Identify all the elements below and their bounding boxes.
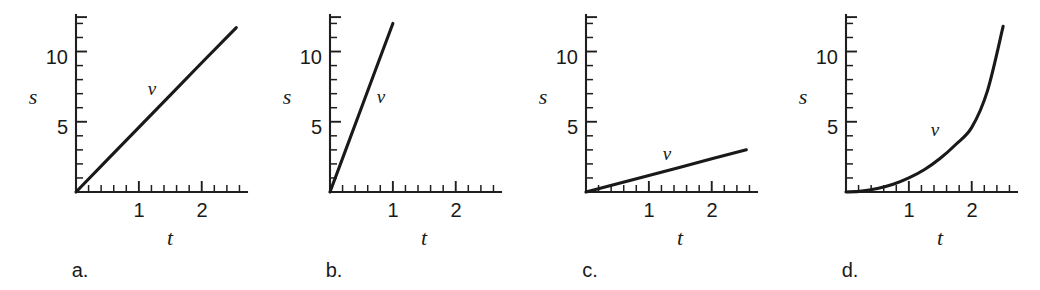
panel-a-x-axis-label: t [167, 225, 174, 250]
panel-a-line-v [76, 28, 236, 192]
panel-a: 10 5 1 2 s t v a. [0, 0, 260, 290]
panel-b-ytick-label-10: 10 [300, 46, 322, 68]
panel-c-y-ticks [586, 17, 597, 178]
panel-a-xtick-label-2: 2 [196, 199, 207, 221]
panel-c: 10 5 1 2 s t v c. [510, 0, 770, 290]
panel-d-y-axis-label: s [799, 84, 808, 109]
panel-a-ytick-label-10: 10 [46, 46, 68, 68]
panel-b-axes [330, 15, 501, 192]
panel-b: 10 5 1 2 s t v b. [254, 0, 514, 290]
panel-b-ytick-label-5: 5 [311, 116, 322, 138]
panel-d-curve-v [846, 26, 1003, 192]
panel-b-xtick-label-1: 1 [387, 199, 398, 221]
panel-c-letter: c. [582, 259, 598, 281]
panel-b-line-v [330, 23, 393, 192]
panel-c-curve-label-v: v [663, 143, 672, 164]
panel-c-axes [586, 15, 757, 192]
panel-b-xtick-label-2: 2 [450, 199, 461, 221]
panel-a-xtick-label-1: 1 [133, 199, 144, 221]
panel-c-xtick-label-2: 2 [706, 199, 717, 221]
panel-d-curve-label-v: v [931, 119, 940, 140]
panel-d-x-axis-label: t [937, 225, 944, 250]
panel-d-ytick-label-10: 10 [816, 46, 838, 68]
panel-b-curve-label-v: v [377, 86, 386, 107]
panel-a-letter: a. [72, 259, 89, 281]
panel-b-y-ticks [330, 17, 341, 178]
panel-d-plot: 10 5 1 2 s t v d. [770, 0, 1030, 290]
panel-d-xtick-label-2: 2 [966, 199, 977, 221]
panel-a-y-ticks [76, 17, 87, 178]
panel-b-y-axis-label: s [283, 84, 292, 109]
panel-a-curve-label-v: v [148, 78, 157, 99]
four-panel-motion-graphs-figure: 10 5 1 2 s t v a. 10 5 1 2 s t v b. [0, 0, 1040, 290]
panel-a-x-ticks [89, 181, 240, 192]
panel-d: 10 5 1 2 s t v d. [770, 0, 1030, 290]
panel-b-x-ticks [343, 181, 494, 192]
panel-a-y-axis-label: s [29, 84, 38, 109]
panel-d-ytick-label-5: 5 [827, 116, 838, 138]
panel-c-plot: 10 5 1 2 s t v c. [510, 0, 770, 290]
panel-d-y-ticks [846, 17, 857, 178]
panel-c-ytick-label-10: 10 [556, 46, 578, 68]
panel-a-plot: 10 5 1 2 s t v a. [0, 0, 260, 290]
panel-d-xtick-label-1: 1 [903, 199, 914, 221]
panel-c-y-axis-label: s [539, 84, 548, 109]
panel-a-ytick-label-5: 5 [57, 116, 68, 138]
panel-b-plot: 10 5 1 2 s t v b. [254, 0, 514, 290]
panel-c-x-axis-label: t [677, 225, 684, 250]
panel-d-letter: d. [842, 259, 859, 281]
panel-c-xtick-label-1: 1 [643, 199, 654, 221]
panel-c-ytick-label-5: 5 [567, 116, 578, 138]
panel-b-x-axis-label: t [421, 225, 428, 250]
panel-b-letter: b. [326, 259, 343, 281]
